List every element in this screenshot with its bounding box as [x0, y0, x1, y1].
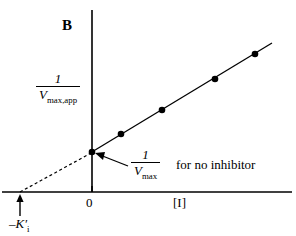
y-axis-label: 1 Vmax,app [36, 72, 80, 104]
vmax-annotation-label: 1 Vmax [131, 148, 160, 180]
fit-line [91, 43, 272, 153]
figure-panel-b: B 1 Vmax,app 1 Vmax for no inhibitor 0 [… [0, 0, 296, 236]
plot-canvas [0, 0, 296, 236]
ki-subscript: i [27, 224, 29, 234]
origin-label: 0 [86, 196, 93, 209]
data-point [212, 76, 219, 83]
x-axis-label: [I] [173, 196, 186, 209]
vmax-denominator: Vmax [131, 163, 160, 180]
ki-intercept-label: –K′i [9, 217, 29, 233]
y-axis-denominator: Vmax,app [36, 87, 80, 104]
data-point [159, 107, 166, 114]
data-point [118, 131, 125, 138]
y-axis-fraction: 1 Vmax,app [36, 72, 80, 104]
y-axis-numerator: 1 [36, 72, 80, 86]
vmax-denominator-var: V [134, 163, 142, 178]
vmax-annotation-arrow [95, 152, 128, 166]
ki-variable: K [16, 216, 25, 231]
panel-letter: B [62, 18, 72, 33]
data-point [89, 149, 96, 156]
vmax-numerator: 1 [131, 148, 160, 162]
extrapolation-dashed-line [20, 152, 93, 192]
y-axis-denominator-subscript: max,app [47, 95, 77, 105]
data-point [252, 51, 259, 58]
ki-annotation-arrow [16, 194, 23, 216]
vmax-denominator-subscript: max [142, 171, 157, 181]
no-inhibitor-label: for no inhibitor [176, 158, 255, 171]
y-axis-denominator-var: V [39, 87, 47, 102]
vmax-fraction: 1 Vmax [131, 148, 160, 180]
